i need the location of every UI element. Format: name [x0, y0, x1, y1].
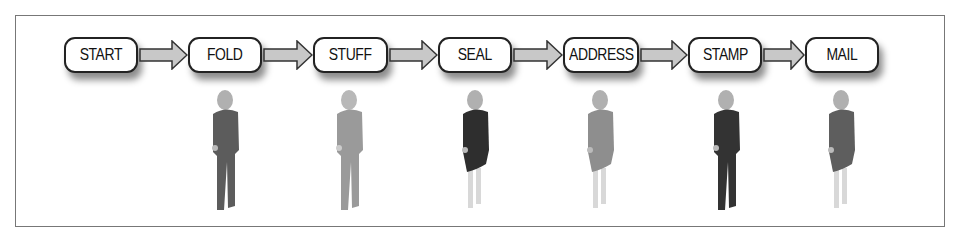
step-label: ADDRESS	[569, 45, 634, 65]
step-label: FOLD	[207, 45, 243, 65]
arrow-right-icon	[763, 40, 805, 70]
step-label: MAIL	[827, 45, 858, 65]
step-label: STUFF	[329, 45, 372, 65]
arrow-right-icon	[139, 40, 188, 70]
step-stamp: STAMP	[688, 37, 762, 73]
person-icon	[824, 90, 858, 212]
step-fold: FOLD	[188, 37, 262, 73]
step-label: START	[80, 45, 122, 65]
step-mail: MAIL	[805, 37, 879, 73]
person-icon	[208, 90, 242, 212]
step-label: SEAL	[458, 45, 492, 65]
step-start: START	[64, 37, 138, 73]
person-icon	[332, 90, 366, 212]
step-stuff: STUFF	[313, 37, 388, 73]
arrow-right-icon	[263, 40, 313, 70]
arrow-right-icon	[513, 40, 563, 70]
step-label: STAMP	[703, 45, 748, 65]
step-seal: SEAL	[438, 37, 512, 73]
person-icon	[709, 90, 743, 212]
step-address: ADDRESS	[563, 37, 639, 73]
person-icon	[583, 90, 617, 212]
arrow-right-icon	[640, 40, 688, 70]
arrow-right-icon	[389, 40, 438, 70]
person-icon	[458, 90, 492, 212]
